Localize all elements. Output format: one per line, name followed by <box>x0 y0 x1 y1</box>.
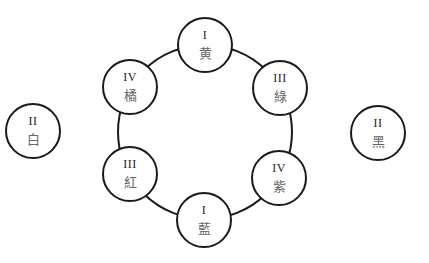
node-white: II 白 <box>5 103 61 159</box>
node-red: III 紅 <box>102 146 158 202</box>
node-numeral: I <box>202 203 207 217</box>
node-label: 紫 <box>273 179 286 195</box>
node-black: II 黑 <box>350 105 406 161</box>
node-numeral: IV <box>272 161 286 175</box>
node-label: 綠 <box>274 89 287 105</box>
node-numeral: I <box>203 28 208 42</box>
node-blue: I 藍 <box>176 192 232 248</box>
node-label: 白 <box>27 132 40 148</box>
node-numeral: II <box>374 116 383 130</box>
node-orange: IV 橘 <box>102 59 158 115</box>
node-label: 藍 <box>198 221 211 237</box>
node-numeral: III <box>273 71 287 85</box>
node-label: 黄 <box>199 46 212 62</box>
node-purple: IV 紫 <box>251 150 307 206</box>
node-label: 橘 <box>124 88 137 104</box>
node-yellow: I 黄 <box>177 17 233 73</box>
node-label: 紅 <box>124 175 137 191</box>
node-numeral: II <box>29 114 38 128</box>
node-numeral: IV <box>123 70 137 84</box>
color-wheel-diagram: I 黄 III 綠 IV 紫 I 藍 III 紅 IV 橘 II 白 II 黑 <box>0 0 429 263</box>
node-numeral: III <box>123 157 137 171</box>
node-label: 黑 <box>372 134 385 150</box>
node-green: III 綠 <box>252 60 308 116</box>
